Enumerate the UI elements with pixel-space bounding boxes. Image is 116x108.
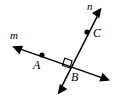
geometry-figure: m n A B C [0,0,116,108]
right-angle-marker-at-b [63,58,73,68]
point-a-label: A [33,59,40,71]
line-n [58,8,102,95]
point-b-label: B [71,71,78,83]
line-n-label: n [87,1,93,12]
point-c-dot [84,29,89,34]
line-m-label: m [10,30,18,41]
line-m-segment [19,49,103,79]
geometry-diagram-svg [0,0,116,108]
point-c-label: C [93,27,101,39]
point-a-dot [39,52,44,57]
line-m [12,46,110,82]
right-angle-square [63,58,73,68]
